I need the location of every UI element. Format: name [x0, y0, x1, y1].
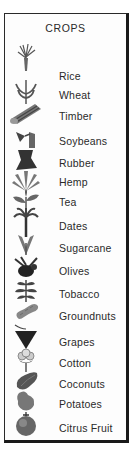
legend-label: Wheat [59, 89, 90, 101]
sugarcane-icon [11, 233, 41, 257]
legend-label: Tea [59, 196, 77, 208]
timber-icon [9, 101, 43, 125]
legend-label: Tobacco [59, 288, 100, 300]
soybeans-icon [11, 126, 41, 150]
legend-title: CROPS [5, 22, 126, 34]
legend-label: Sugarcane [59, 242, 112, 254]
legend-label: Rubber [59, 157, 95, 169]
grapes-icon [11, 323, 41, 351]
legend-label: Citrus Fruit [59, 422, 113, 434]
legend-label: Dates [59, 220, 87, 232]
legend-item-citrus-fruit: Citrus Fruit [5, 419, 126, 439]
legend-label: Groundnuts [59, 310, 116, 322]
legend-label: Timber [59, 110, 92, 122]
legend-label: Cotton [59, 357, 91, 369]
legend-label: Olives [59, 265, 89, 277]
citrus-fruit-icon [11, 411, 41, 437]
legend-label: Coconuts [59, 378, 105, 390]
groundnuts-icon [11, 299, 41, 323]
legend-label: Potatoes [59, 398, 102, 410]
rice-icon [11, 42, 41, 72]
legend-label: Soybeans [59, 135, 107, 147]
legend-item-timber: Timber [5, 107, 126, 127]
legend-label: Grapes [59, 336, 95, 348]
legend-label: Hemp [59, 176, 88, 188]
olives-icon [11, 255, 41, 279]
crops-legend: CROPS Rice Wheat Timber [4, 13, 129, 443]
legend-item-rice: Rice [5, 42, 126, 62]
legend-label: Rice [59, 70, 81, 82]
potatoes-icon [11, 389, 41, 413]
